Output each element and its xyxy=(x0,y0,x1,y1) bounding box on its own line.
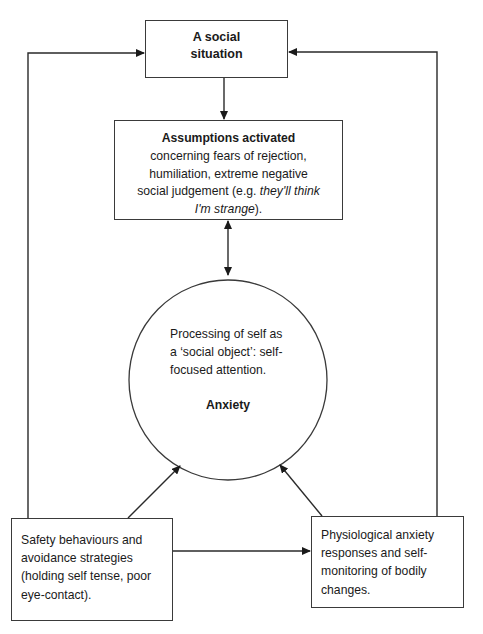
physiological-line3: monitoring of bodily xyxy=(321,562,463,580)
social-situation-line2: situation xyxy=(146,46,287,63)
assumptions-line4-italic: I'm strange xyxy=(195,202,255,216)
social-situation-line1: A social xyxy=(146,29,287,46)
safety-line4: eye-contact). xyxy=(21,586,172,604)
physiological-line2: responses and self- xyxy=(321,544,463,562)
safety-behaviours-box: Safety behaviours and avoidance strategi… xyxy=(11,518,173,621)
safety-line2: avoidance strategies xyxy=(21,549,172,567)
assumptions-title: Assumptions activated xyxy=(115,130,342,148)
safety-line3: (holding self tense, poor xyxy=(21,567,172,585)
self-processing-line3: focused attention. xyxy=(170,362,310,380)
arrow-safety-to-circle xyxy=(128,466,180,518)
physiological-line4: changes. xyxy=(321,581,463,599)
social-situation-box: A social situation xyxy=(145,20,288,78)
anxiety-label: Anxiety xyxy=(140,397,316,415)
assumptions-line1: concerning fears of rejection, xyxy=(115,148,342,166)
assumptions-line2: humiliation, extreme negative xyxy=(115,166,342,184)
assumptions-box: Assumptions activated concerning fears o… xyxy=(114,120,343,220)
assumptions-line4-suffix: ). xyxy=(255,202,262,216)
self-processing-circle xyxy=(129,280,327,480)
safety-line1: Safety behaviours and xyxy=(21,531,172,549)
assumptions-line4: I'm strange). xyxy=(115,201,342,219)
self-processing-line2: a ‘social object’: self- xyxy=(170,344,310,362)
assumptions-line3-italic: they'll think xyxy=(260,184,320,198)
assumptions-line3: social judgement (e.g. they'll think xyxy=(115,183,342,201)
assumptions-line3-prefix: social judgement (e.g. xyxy=(137,184,260,198)
physiological-box: Physiological anxiety responses and self… xyxy=(311,516,464,608)
self-processing-text: Processing of self as a ‘social object’:… xyxy=(170,326,310,379)
arrow-physiological-to-circle xyxy=(280,465,322,516)
self-processing-line1: Processing of self as xyxy=(170,326,310,344)
physiological-line1: Physiological anxiety xyxy=(321,526,463,544)
